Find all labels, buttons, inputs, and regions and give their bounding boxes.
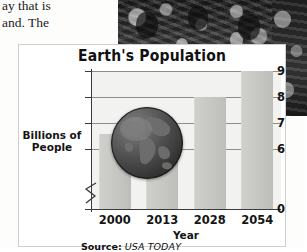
earth-globe-illustration xyxy=(111,107,183,179)
source-value: USA TODAY xyxy=(125,241,181,252)
book-text-line-1: ay that is xyxy=(2,0,122,14)
chart-title: Earth's Population xyxy=(28,47,275,65)
book-text-line-2: and. The xyxy=(2,14,122,31)
y-tick-label-9: 9 xyxy=(223,64,285,78)
y-tick-label-8: 8 xyxy=(223,90,285,104)
y-axis-title: Billions of People xyxy=(19,129,85,153)
axis-break-icon xyxy=(83,181,99,205)
x-tick-label-2028: 2028 xyxy=(186,213,234,227)
book-body-text: ay that is and. The xyxy=(2,0,122,31)
x-axis-tick-labels: 2000 2013 2028 2054 xyxy=(91,213,281,227)
source-note: Source: USA TODAY xyxy=(81,241,181,252)
y-tick-label-6: 6 xyxy=(223,142,285,156)
source-label: Source: xyxy=(81,241,122,252)
x-tick-label-2054: 2054 xyxy=(234,213,282,227)
y-axis-title-line-2: People xyxy=(19,141,85,153)
bar-2028 xyxy=(194,97,226,209)
x-axis-title: Year xyxy=(91,229,281,241)
x-tick-label-2000: 2000 xyxy=(91,213,139,227)
x-tick-label-2013: 2013 xyxy=(139,213,187,227)
y-axis-title-line-1: Billions of xyxy=(19,129,85,141)
y-tick-label-7: 7 xyxy=(223,116,285,130)
chart-panel: Earth's Population Billions of People xyxy=(18,44,286,247)
